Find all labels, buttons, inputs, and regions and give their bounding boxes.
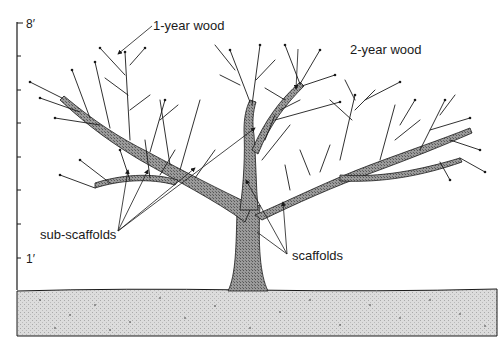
scale-top-label: 8′ — [26, 18, 35, 30]
label-two-year-wood: 2-year wood — [350, 43, 422, 56]
label-sub-scaffolds: sub-scaffolds — [40, 228, 116, 241]
label-scaffolds: scaffolds — [292, 249, 343, 262]
tree-diagram — [0, 0, 501, 343]
label-one-year-wood: 1-year wood — [153, 19, 225, 32]
scale-bottom-label: 1′ — [26, 253, 35, 265]
trunk-and-scaffolds — [60, 82, 472, 291]
branches — [30, 45, 485, 190]
height-scale — [17, 22, 23, 290]
ground — [17, 289, 497, 336]
